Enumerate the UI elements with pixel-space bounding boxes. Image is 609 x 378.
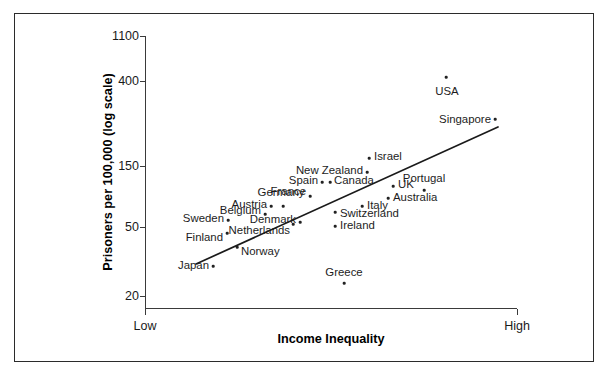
y-tick-mark	[140, 296, 146, 297]
y-tick-label: 150	[99, 159, 139, 173]
data-point	[212, 265, 215, 268]
data-point	[494, 118, 497, 121]
x-axis-title: Income Inequality	[277, 332, 384, 346]
data-point-label: Netherlands	[229, 225, 290, 236]
data-point-label: Portugal	[403, 173, 445, 184]
x-tick-high-mark	[517, 309, 518, 315]
data-point-label: Ireland	[340, 220, 375, 231]
data-point-label: Japan	[178, 260, 209, 271]
data-point	[236, 246, 239, 249]
x-tick-low-label: Low	[134, 319, 157, 333]
y-tick-label: 20	[99, 289, 139, 303]
data-point	[321, 181, 324, 184]
data-point-label: Switzerland	[340, 208, 399, 219]
data-point-label: Australia	[393, 192, 437, 203]
data-point	[226, 232, 229, 235]
y-tick-mark	[140, 81, 146, 82]
data-point-label: Greece	[325, 267, 362, 278]
data-point	[309, 195, 312, 198]
data-point	[282, 205, 285, 208]
data-point	[343, 282, 346, 285]
data-point-label: Finland	[186, 232, 223, 243]
data-point	[366, 171, 369, 174]
data-point-label: Canada	[334, 175, 374, 186]
y-tick-label: 50	[99, 220, 139, 234]
data-point	[292, 223, 295, 226]
y-tick-label: 1100	[99, 29, 139, 43]
data-point	[392, 185, 395, 188]
data-point-label: Germany	[258, 187, 305, 198]
data-point	[270, 205, 273, 208]
data-point-label: Sweden	[183, 213, 224, 224]
data-point	[368, 157, 371, 160]
data-point	[227, 219, 230, 222]
y-tick-mark	[140, 166, 146, 167]
y-tick-mark	[140, 36, 146, 37]
y-tick-label: 400	[99, 74, 139, 88]
data-point	[334, 225, 337, 228]
data-point	[329, 181, 332, 184]
data-point-label: Singapore	[439, 114, 491, 125]
data-point	[445, 76, 448, 79]
data-point-label: Norway	[241, 246, 280, 257]
data-point	[299, 221, 302, 224]
data-point-label: USA	[435, 86, 458, 97]
x-tick-high-label: High	[504, 319, 530, 333]
scatter-plot-figure: Prisoners per 100,000 (log scale) Income…	[0, 0, 609, 378]
y-tick-mark	[140, 227, 146, 228]
data-point-label: Israel	[374, 151, 402, 162]
x-tick-low-mark	[145, 309, 146, 315]
data-point	[334, 211, 337, 214]
